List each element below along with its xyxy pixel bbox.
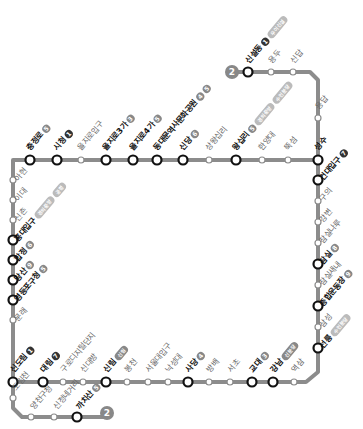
station-node-충정로[interactable]	[26, 156, 35, 165]
station-node-용두[interactable]	[268, 69, 274, 75]
station-node-왕십리[interactable]	[232, 156, 241, 165]
station-node-뚝섬[interactable]	[285, 157, 291, 163]
station-node-신정네거리[interactable]	[51, 414, 57, 420]
line-2-terminus-marker: 2	[225, 65, 239, 79]
station-node-을지로3가[interactable]	[102, 156, 111, 165]
station-node-상왕십리[interactable]	[206, 157, 212, 163]
station-node-역삼[interactable]	[291, 379, 297, 385]
station-node-한양대[interactable]	[259, 157, 265, 163]
station-node-방배[interactable]	[206, 379, 212, 385]
station-node-봉천[interactable]	[124, 379, 130, 385]
station-node-까치산[interactable]	[73, 413, 82, 422]
station-node-서초[interactable]	[227, 379, 233, 385]
station-node-을지로입구[interactable]	[78, 157, 84, 163]
line-2-terminus-marker: 2	[100, 406, 114, 420]
station-node-용답[interactable]	[315, 115, 321, 121]
station-node-시청[interactable]	[53, 156, 62, 165]
station-node-신답[interactable]	[290, 69, 296, 75]
station-node-사당[interactable]	[184, 378, 193, 387]
station-node-신당[interactable]	[179, 156, 188, 165]
station-node-양천구청[interactable]	[28, 414, 34, 420]
station-node-동대문역사문화공원[interactable]	[153, 156, 162, 165]
station-node-서울대입구[interactable]	[145, 379, 151, 385]
station-node-도림천[interactable]	[10, 395, 16, 401]
station-node-낙성대[interactable]	[165, 379, 171, 385]
station-node-성수[interactable]	[314, 156, 323, 165]
subway-line-2-map: 충정로5시청1을지로입구을지로3가3을지로4가5동대문역사문화공원45신당6상왕…	[0, 0, 363, 429]
station-node-신설동[interactable]	[244, 68, 253, 77]
station-node-신림[interactable]	[102, 378, 111, 387]
station-node-교대[interactable]	[248, 378, 257, 387]
line-track	[0, 0, 363, 429]
station-node-강남[interactable]	[269, 378, 278, 387]
station-node-을지로4가[interactable]	[129, 156, 138, 165]
station-node-구로디지털단지[interactable]	[60, 379, 66, 385]
